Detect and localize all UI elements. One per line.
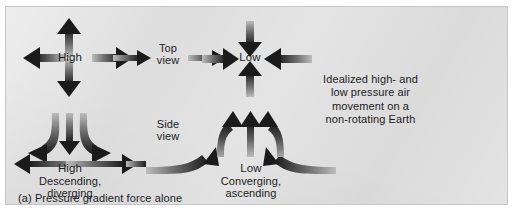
diagram-panel: High Top view Low Side view High Descend…	[5, 6, 508, 205]
high-descending-arrow-left	[28, 113, 59, 163]
low-converging-arrow-left	[146, 147, 219, 174]
low-ascending-arrow-right	[257, 111, 284, 157]
low-ascending-arrow-center	[240, 111, 261, 157]
figure-pressure-gradient-force: High Top view Low Side view High Descend…	[0, 0, 517, 218]
side-view-label: Side view	[145, 119, 191, 143]
high-descending-arrow-right	[80, 113, 111, 163]
low-arrow-from-bottom	[238, 61, 262, 97]
high-descending-arrow-center	[59, 113, 80, 155]
figure-caption: (a) Pressure gradient force alone	[18, 193, 318, 205]
connector-arrow-sidehigh-to-sideview	[126, 161, 146, 167]
side-view-high-label: High	[48, 162, 92, 174]
top-view-label: Top view	[145, 43, 191, 67]
high-arrow-down	[57, 59, 81, 97]
top-view-low-label: Low	[228, 51, 272, 63]
low-ascending-arrow-left	[217, 111, 243, 157]
side-view-low-label: Low	[229, 162, 273, 174]
low-converging-arrow-right	[263, 147, 336, 174]
top-view-high-label: High	[48, 51, 92, 63]
annotation-text: Idealized high- and low pressure air mov…	[283, 73, 458, 127]
